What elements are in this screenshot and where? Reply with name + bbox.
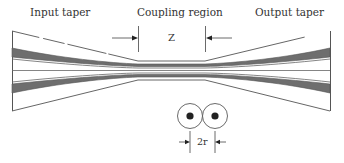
fused-coupler-diagram	[0, 0, 344, 163]
coupling-left-arrowhead-icon	[132, 36, 138, 41]
diameter-label: 2r	[197, 136, 208, 147]
diameter-left-arrowhead-icon	[185, 140, 190, 144]
coupling-length-label: Z	[168, 32, 175, 43]
fiber-core-left-dot	[186, 112, 193, 119]
diameter-right-arrowhead-icon	[215, 140, 220, 144]
coupling-right-arrowhead-icon	[206, 36, 212, 41]
fiber-core-right-dot	[211, 112, 218, 119]
